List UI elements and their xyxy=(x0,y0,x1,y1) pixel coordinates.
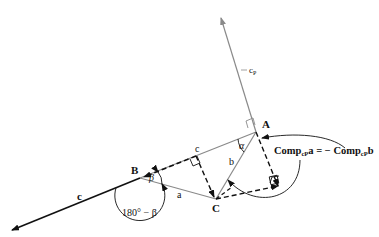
point-c-label: C xyxy=(212,202,220,214)
exterior-angle-label: 180° − β xyxy=(122,207,157,218)
side-a-label: a xyxy=(177,189,182,200)
equation: CompcPa = − CompcPb xyxy=(274,145,374,157)
projection-b xyxy=(216,132,279,199)
angle-exterior: 180° − β xyxy=(115,184,165,221)
side-c-label: c xyxy=(195,143,200,154)
projection-a xyxy=(190,156,214,197)
c-extended-label: c xyxy=(77,190,82,202)
beta-label: β xyxy=(148,172,154,183)
point-b-label: B xyxy=(131,164,139,176)
side-b-label: b xyxy=(229,156,234,167)
alpha-label: α xyxy=(239,140,245,151)
point-a-label: A xyxy=(262,118,270,130)
vector-diagram: cP α β xyxy=(0,0,379,237)
cp-vector: cP xyxy=(221,18,257,132)
angle-alpha: α xyxy=(238,139,245,152)
cp-label: cP xyxy=(249,65,257,76)
